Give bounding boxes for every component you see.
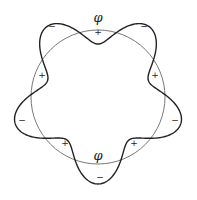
wave-diagram: φφ −+−++−−++− — [0, 0, 197, 200]
phi-label: φ — [93, 10, 103, 25]
plus-sign-label: + — [94, 27, 102, 37]
minus-sign-label: − — [48, 21, 56, 31]
plus-sign-label: + — [151, 70, 159, 80]
phi-label: φ — [93, 148, 103, 163]
plus-sign-label: + — [38, 70, 46, 80]
minus-sign-label: − — [18, 115, 26, 125]
plus-sign-label: + — [130, 138, 138, 148]
minus-sign-label: − — [171, 115, 179, 125]
plus-sign-label: + — [61, 138, 69, 148]
reference-circle — [31, 30, 165, 164]
minus-sign-label: − — [96, 172, 104, 182]
minus-sign-label: − — [140, 21, 148, 31]
